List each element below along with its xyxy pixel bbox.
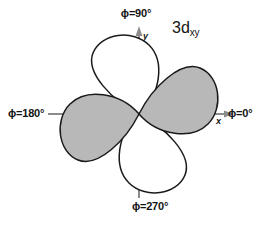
phi-270-label: ϕ=270°	[132, 201, 168, 212]
y-axis-label: y	[143, 32, 148, 41]
x-axis-label: x	[216, 117, 221, 126]
orbital-title-main: 3d	[172, 19, 190, 36]
phi-90-label: ϕ=90°	[121, 8, 151, 19]
orbital-title: 3dxy	[172, 20, 199, 36]
phi-0-label: ϕ=0°	[228, 108, 252, 119]
orbital-title-subscript: xy	[190, 27, 199, 38]
phi-180-label: ϕ=180°	[8, 108, 44, 119]
